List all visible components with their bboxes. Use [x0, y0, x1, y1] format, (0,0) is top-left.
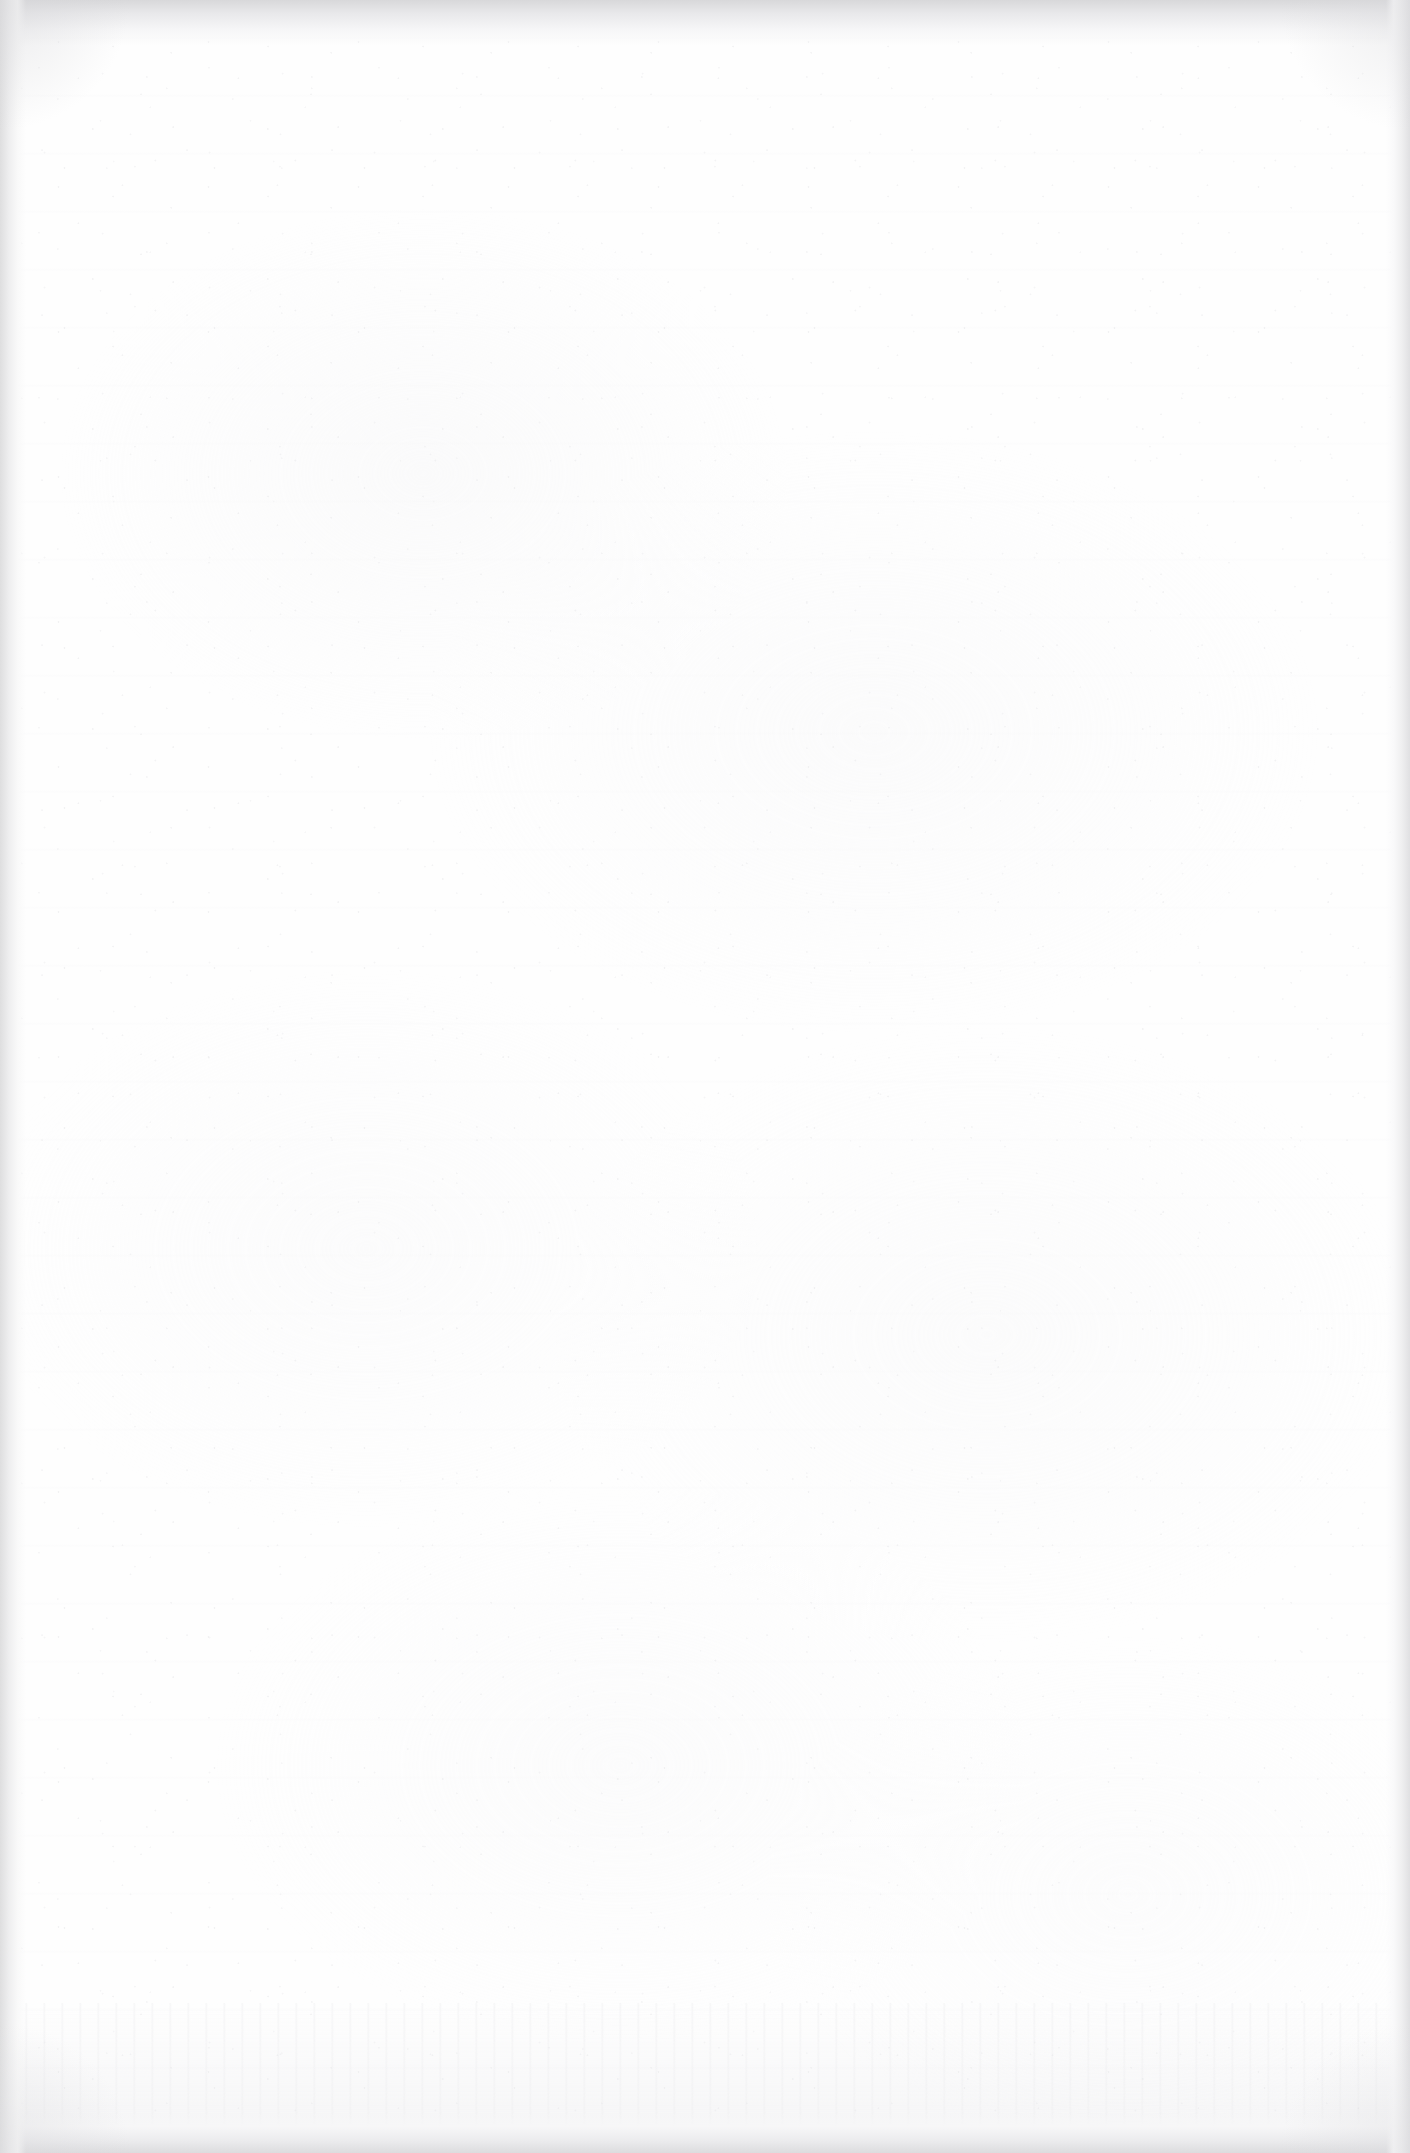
- bottom-texture-band: [0, 2003, 1410, 2153]
- scanned-page: [0, 0, 1410, 2153]
- paper-grain-speckle: [0, 0, 1410, 2153]
